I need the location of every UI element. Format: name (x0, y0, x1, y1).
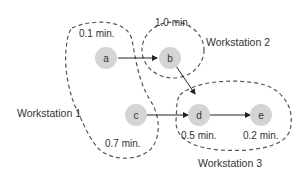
time-label-d: 0.5 min. (181, 131, 217, 141)
precedence-diagram: a b c d e (0, 0, 307, 177)
edge-b-d (176, 66, 195, 94)
svg-text:b: b (167, 53, 173, 64)
time-label-a: 0.1 min. (79, 29, 115, 39)
workstation-1-label: Workstation 1 (17, 108, 81, 119)
svg-text:a: a (103, 53, 109, 64)
svg-text:d: d (196, 110, 202, 121)
time-label-c: 0.7 min. (105, 139, 141, 149)
node-b: b (159, 47, 181, 69)
time-label-b: 1.0 min. (155, 18, 191, 28)
svg-text:c: c (134, 110, 139, 121)
workstation-3-label: Workstation 3 (198, 158, 262, 169)
node-e: e (250, 104, 272, 126)
svg-text:e: e (258, 110, 264, 121)
node-c: c (125, 104, 147, 126)
workstation-2-label: Workstation 2 (206, 37, 270, 48)
node-d: d (188, 104, 210, 126)
node-a: a (95, 47, 117, 69)
time-label-e: 0.2 min. (243, 131, 279, 141)
